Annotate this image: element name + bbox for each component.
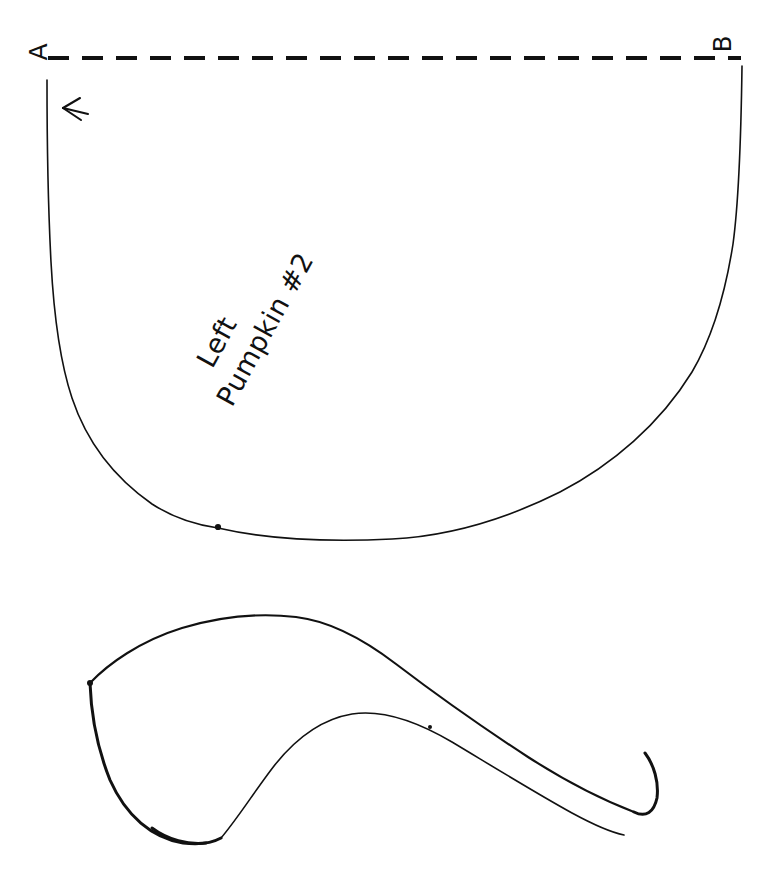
label-a-group: A	[24, 43, 53, 60]
label-b-group: B	[708, 35, 737, 52]
seam-dot	[215, 524, 221, 530]
pattern-sheet: A B Pumpkin #2 Left	[0, 0, 775, 884]
wedge-inner-nib-dot	[428, 725, 432, 729]
point-b-label: B	[708, 35, 737, 52]
pattern-drawing-canvas: A B Pumpkin #2 Left	[0, 0, 775, 884]
point-a-label: A	[24, 43, 53, 60]
paper-background	[0, 0, 775, 884]
wedge-corner-dot	[87, 680, 93, 686]
